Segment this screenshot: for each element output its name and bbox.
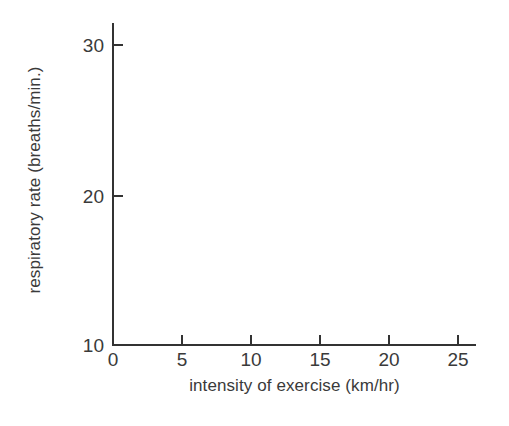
x-tick-mark-0	[112, 335, 114, 344]
x-tick-label-10: 10	[226, 350, 276, 369]
x-axis-line	[112, 344, 476, 346]
y-tick-mark-30	[114, 44, 123, 46]
y-axis-line	[112, 23, 114, 346]
x-tick-label-15: 15	[295, 350, 345, 369]
x-tick-mark-25	[457, 335, 459, 344]
x-tick-mark-15	[319, 335, 321, 344]
y-tick-label-30: 30	[58, 36, 104, 55]
x-tick-mark-5	[181, 335, 183, 344]
x-tick-label-0: 0	[88, 350, 138, 369]
x-tick-mark-20	[388, 335, 390, 344]
x-tick-label-5: 5	[157, 350, 207, 369]
x-axis-label: intensity of exercise (km/hr)	[113, 376, 476, 396]
y-tick-label-30-wrap: 30	[54, 36, 104, 55]
y-tick-label-20: 20	[58, 187, 104, 206]
y-tick-mark-20	[114, 195, 123, 197]
chart-figure: 30 20 10 0 5 10 15 20 25 respiratory rat…	[0, 0, 509, 426]
x-tick-mark-10	[250, 335, 252, 344]
x-tick-label-20: 20	[364, 350, 414, 369]
y-axis-label: respiratory rate (breaths/min.)	[20, 10, 50, 350]
x-tick-label-25: 25	[433, 350, 483, 369]
plot-area	[114, 24, 476, 344]
y-tick-label-20-wrap: 20	[54, 187, 104, 206]
